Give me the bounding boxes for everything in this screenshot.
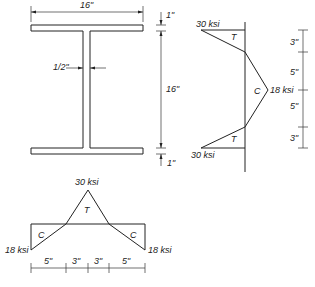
compression-label: C — [254, 86, 261, 96]
mid-stress-label: 18 ksi — [270, 85, 295, 95]
compression-region-left — [31, 224, 66, 250]
dim-label: 5" — [290, 67, 299, 77]
arrow-icon — [90, 67, 95, 70]
bottom-stress-label: 30 ksi — [191, 150, 216, 160]
dim-label: 3" — [290, 37, 299, 47]
flange-width-label: 16" — [80, 0, 94, 10]
peak-stress-label: 30 ksi — [75, 177, 100, 187]
i-beam-outline — [31, 25, 143, 154]
arrow-icon — [160, 143, 163, 148]
compression-label-right: C — [130, 230, 137, 240]
arrow-icon — [138, 11, 143, 14]
beam-stress-diagram: 16" 1/2" 1" 16" 1" 30 ksi T C 18 — [0, 0, 315, 287]
arrow-icon — [31, 11, 36, 14]
tension-label-bottom: T — [231, 134, 238, 144]
top-stress-label: 30 ksi — [196, 19, 221, 29]
dim-label: 3" — [94, 256, 103, 266]
arrow-icon — [78, 67, 83, 70]
web-height-label: 16" — [166, 84, 180, 94]
arrow-icon — [160, 20, 163, 25]
compression-region-right — [109, 224, 145, 250]
arrow-icon — [160, 31, 163, 36]
dim-label: 3" — [72, 256, 81, 266]
flange-stress-diagram: 30 ksi T C 18 ksi T 30 ksi 3" 5" 5" 3" — [191, 19, 308, 172]
dim-label: 3" — [290, 133, 299, 143]
tension-triangle-bottom — [201, 127, 245, 148]
top-flange-thickness-label: 1" — [166, 10, 175, 20]
i-beam-section: 16" 1/2" 1" 16" 1" — [31, 0, 180, 168]
bottom-flange-thickness-label: 1" — [167, 158, 176, 168]
tension-label-top: T — [231, 32, 238, 42]
web-thickness-label: 1/2" — [53, 62, 70, 72]
tension-triangle-top — [201, 30, 245, 52]
right-stress-label: 18 ksi — [148, 245, 173, 255]
left-stress-label: 18 ksi — [5, 245, 30, 255]
compression-label-left: C — [38, 230, 45, 240]
web-stress-diagram: 30 ksi T C C 18 ksi 18 ksi 5" 3" 3" 5" — [5, 177, 173, 273]
dim-label: 5" — [290, 101, 299, 111]
arrow-icon — [160, 154, 163, 159]
dim-label: 5" — [122, 256, 131, 266]
dim-label: 5" — [44, 256, 53, 266]
tension-label: T — [84, 205, 91, 215]
